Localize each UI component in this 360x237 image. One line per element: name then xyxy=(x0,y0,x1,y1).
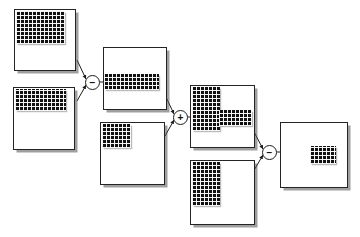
edge-input2-to-op1 xyxy=(77,85,86,101)
subtract-operator-2-symbol: − xyxy=(267,147,273,157)
edge-input3-to-op2 xyxy=(165,120,174,136)
subtract-operator-1[interactable]: − xyxy=(85,75,100,90)
intermediate-image-upper[interactable] xyxy=(103,47,167,110)
input-image-middle-lower-region-top-left-square xyxy=(102,124,131,148)
input-image-top-left[interactable] xyxy=(14,9,76,71)
add-operator[interactable]: + xyxy=(173,110,188,125)
input-image-top-left-region-top-left-block xyxy=(16,11,65,44)
result-image-region-center-rect xyxy=(310,146,336,164)
input-image-bottom-right[interactable] xyxy=(190,160,255,225)
add-operator-symbol: + xyxy=(178,112,184,122)
subtract-operator-1-symbol: − xyxy=(90,77,96,87)
edge-input1-to-op1 xyxy=(77,60,86,79)
input-image-middle-lower[interactable] xyxy=(100,122,165,185)
subtract-operator-2[interactable]: − xyxy=(262,145,277,160)
intermediate-image-lshape-region-left-column xyxy=(192,87,220,131)
intermediate-image-lshape-region-middle-band-right xyxy=(219,110,252,126)
input-image-bottom-left-region-top-band xyxy=(15,89,66,111)
input-image-bottom-right-region-left-column xyxy=(192,162,220,206)
result-image[interactable] xyxy=(280,122,348,188)
intermediate-image-lshape[interactable] xyxy=(190,85,255,148)
input-image-bottom-left[interactable] xyxy=(13,87,75,150)
intermediate-image-upper-region-middle-band xyxy=(104,74,159,90)
diagram-canvas: −+− xyxy=(0,0,360,237)
